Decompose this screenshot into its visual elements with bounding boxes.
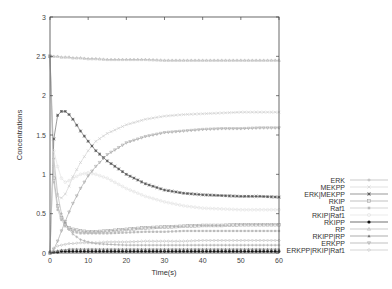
- legend: ERKMEKPPERK|MEKPPRKIPRaf1RKIP|Raf1RKIPPR…: [287, 177, 389, 255]
- series-erk: [49, 55, 281, 247]
- legend-label: RKIP: [329, 198, 346, 205]
- legend-label: MEKPP: [320, 184, 345, 191]
- y-tick-label: 3: [42, 14, 46, 21]
- legend-label: ERKPP: [321, 240, 345, 247]
- y-tick-label: 0.5: [36, 210, 46, 217]
- legend-item: ERK: [331, 177, 388, 184]
- y-tick-label: 1: [42, 171, 46, 178]
- y-tick-label: 1.5: [36, 132, 46, 139]
- x-axis-title: Time(s): [151, 268, 177, 277]
- plot-series: [49, 55, 281, 254]
- x-tick-label: 30: [161, 257, 169, 264]
- x-tick-label: 60: [275, 257, 283, 264]
- series-raf1: [49, 55, 280, 234]
- legend-item: Raf1: [330, 205, 388, 212]
- legend-label: RP: [335, 226, 345, 233]
- legend-item: RKIPP: [324, 219, 388, 226]
- series-rkip-raf1: [49, 149, 281, 254]
- x-tick-label: 40: [199, 257, 207, 264]
- y-tick-label: 0: [42, 250, 46, 257]
- y-tick-label: 2: [42, 92, 46, 99]
- legend-label: RKIPP: [324, 219, 345, 226]
- line-chart: 00.511.522.53 0102030405060 Time(s) Conc…: [0, 0, 392, 289]
- x-tick-label: 0: [48, 257, 52, 264]
- legend-item: ERK|MEKPP: [304, 191, 388, 199]
- legend-label: ERKPP|RKIP|Raf1: [287, 247, 346, 255]
- series-rkip: [49, 55, 281, 233]
- legend-item: ERKPP: [321, 240, 388, 247]
- legend-label: Raf1: [330, 205, 345, 212]
- y-axis-ticks: 00.511.522.53: [36, 14, 279, 257]
- x-tick-label: 20: [122, 257, 130, 264]
- legend-item: ERKPP|RKIP|Raf1: [287, 247, 389, 255]
- series-mekpp: [49, 55, 281, 199]
- x-tick-label: 10: [84, 257, 92, 264]
- x-tick-label: 50: [237, 257, 245, 264]
- y-axis-title: Concentrations: [15, 110, 24, 161]
- legend-item: MEKPP: [320, 184, 388, 191]
- legend-item: RKIP: [329, 198, 388, 205]
- series-rp: [49, 55, 281, 61]
- legend-item: RP: [335, 226, 388, 233]
- y-tick-label: 2.5: [36, 53, 46, 60]
- legend-label: ERK: [331, 177, 346, 184]
